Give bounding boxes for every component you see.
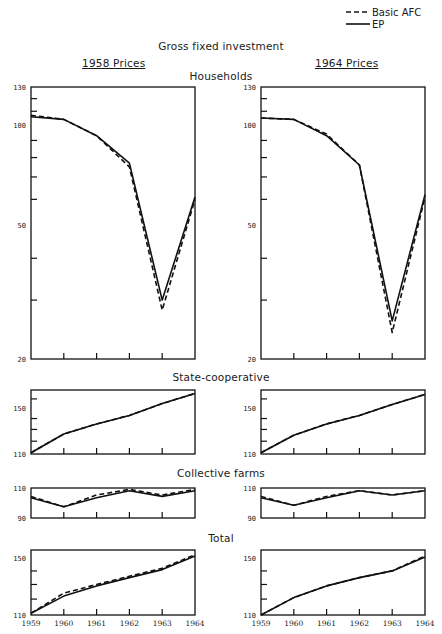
plot-total-1958: 110150195919601961196219631964: [13, 550, 204, 628]
series-ep-line: [31, 117, 195, 300]
plot-frame: [31, 488, 195, 518]
x-tick-label: 1960: [284, 619, 303, 628]
y-tick-label: 130: [13, 84, 26, 92]
series-basic-afc-line: [261, 556, 425, 615]
chart-canvas: 2050100130205010013011015011015090110901…: [0, 0, 442, 634]
y-tick-label: 90: [248, 515, 256, 523]
x-tick-label: 1963: [153, 619, 172, 628]
y-tick-label: 100: [243, 122, 256, 130]
x-tick-label: 1962: [120, 619, 139, 628]
plot-state-coop-1964: 110150: [243, 390, 425, 459]
x-tick-label: 1961: [317, 619, 336, 628]
plot-state-coop-1958: 110150: [13, 390, 195, 459]
plot-frame: [261, 87, 425, 359]
x-tick-label: 1962: [350, 619, 369, 628]
y-tick-label: 20: [18, 356, 26, 364]
y-tick-label: 150: [13, 555, 26, 563]
series-basic-afc-line: [31, 115, 195, 310]
y-tick-label: 130: [243, 84, 256, 92]
series-ep-line: [261, 118, 425, 321]
y-tick-label: 150: [243, 555, 256, 563]
plot-collective-1958: 90110: [13, 485, 195, 523]
y-tick-label: 110: [243, 485, 256, 493]
x-tick-label: 1964: [185, 619, 204, 628]
series-ep-line: [31, 394, 195, 453]
y-tick-label: 50: [18, 222, 26, 230]
series-basic-afc-line: [31, 555, 195, 614]
series-basic-afc-line: [31, 394, 195, 453]
plot-frame: [31, 390, 195, 454]
x-tick-label: 1963: [383, 619, 402, 628]
plot-collective-1964: 90110: [243, 485, 425, 523]
series-ep-line: [261, 557, 425, 615]
y-tick-label: 20: [248, 356, 256, 364]
x-tick-label: 1959: [21, 619, 40, 628]
plot-frame: [261, 390, 425, 454]
x-tick-label: 1964: [415, 619, 434, 628]
series-basic-afc-line: [261, 394, 425, 452]
x-tick-label: 1959: [251, 619, 270, 628]
x-tick-label: 1960: [54, 619, 73, 628]
y-tick-label: 100: [13, 122, 26, 130]
y-tick-label: 110: [13, 451, 26, 459]
y-tick-label: 110: [243, 451, 256, 459]
plot-households-1958: 2050100130: [13, 84, 195, 364]
y-tick-label: 90: [18, 515, 26, 523]
y-tick-label: 50: [248, 222, 256, 230]
y-tick-label: 150: [13, 405, 26, 413]
plot-frame: [31, 87, 195, 359]
series-ep-line: [31, 556, 195, 613]
plot-total-1964: 110150195919601961196219631964: [243, 550, 434, 628]
series-ep-line: [261, 394, 425, 452]
plot-households-1964: 2050100130: [243, 84, 425, 364]
y-tick-label: 110: [13, 485, 26, 493]
y-tick-label: 150: [243, 405, 256, 413]
x-tick-label: 1961: [87, 619, 106, 628]
